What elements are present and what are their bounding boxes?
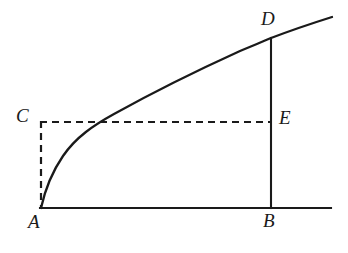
point-label-d: D (261, 9, 275, 28)
figure-canvas (0, 0, 348, 253)
point-label-b: B (263, 211, 275, 230)
point-label-e: E (279, 108, 291, 127)
point-label-c: C (16, 106, 29, 125)
geometry-figure: A B C D E (0, 0, 348, 253)
point-label-a: A (28, 212, 40, 231)
